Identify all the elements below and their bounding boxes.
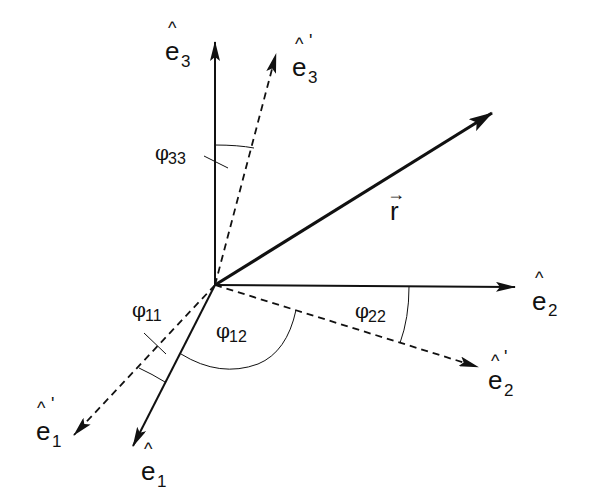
angle-tick-phi11 [144,333,166,354]
svg-text:^: ^ [168,18,177,38]
svg-text:3: 3 [181,52,190,71]
svg-text:': ' [504,347,507,367]
svg-text:1: 1 [157,472,166,491]
label-phi22: φ 22 [355,299,386,325]
axis-e3-prime [215,54,276,285]
svg-text:φ: φ [216,319,230,343]
svg-text:1: 1 [52,432,61,451]
svg-text:^: ^ [37,398,46,418]
label-e1-prime: ^ ' e 1 [36,394,61,451]
svg-text:r: r [390,196,399,226]
label-r: → r [387,184,405,226]
svg-text:33: 33 [168,150,186,167]
svg-text:φ: φ [155,141,169,165]
svg-text:2: 2 [504,381,513,400]
svg-text:e: e [141,456,155,486]
diagram-canvas: ^ e 3 ^ ' e 3 → r ^ e 2 ^ ' e 2 ^ e 1 ^ … [0,0,592,495]
svg-text:^: ^ [535,268,544,288]
label-e2: ^ e 2 [532,268,557,320]
label-phi12: φ 12 [216,319,247,345]
svg-text:22: 22 [368,308,386,325]
svg-text:3: 3 [308,68,317,87]
svg-text:2: 2 [548,301,557,320]
angle-arc-phi11 [139,368,165,382]
svg-text:12: 12 [229,328,247,345]
angle-arc-phi22 [400,287,409,343]
svg-text:φ: φ [132,298,146,322]
axis-e2 [215,285,515,287]
svg-text:e: e [165,36,179,66]
svg-text:e: e [488,365,502,395]
svg-text:11: 11 [145,307,162,324]
label-e1: ^ e 1 [141,439,166,491]
svg-text:': ' [309,31,312,51]
vector-r [215,113,492,285]
axis-e2-prime [215,285,478,367]
svg-text:φ: φ [355,299,369,323]
svg-text:^: ^ [295,34,304,54]
label-e3: ^ e 3 [165,18,190,71]
label-phi11: φ 11 [132,298,162,324]
svg-text:': ' [51,394,54,414]
coordinate-rotation-diagram: ^ e 3 ^ ' e 3 → r ^ e 2 ^ ' e 2 ^ e 1 ^ … [0,0,592,495]
label-e2-prime: ^ ' e 2 [488,347,513,400]
svg-text:e: e [292,52,306,82]
svg-text:e: e [36,416,50,446]
label-phi33: φ 33 [155,141,186,167]
angle-arc-phi33 [215,145,254,148]
svg-text:e: e [532,286,546,316]
label-e3-prime: ^ ' e 3 [292,31,317,87]
